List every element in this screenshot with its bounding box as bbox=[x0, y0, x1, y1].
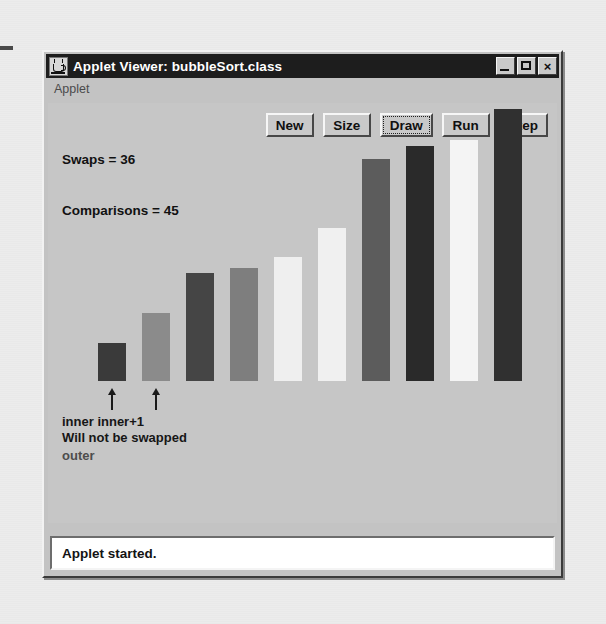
pointer-labels: inner inner+1 bbox=[62, 414, 144, 430]
java-coffee-cup-icon bbox=[49, 57, 68, 76]
outer-label: outer bbox=[62, 448, 95, 464]
window-controls: × bbox=[496, 57, 557, 75]
bar-chart bbox=[48, 103, 557, 523]
close-button[interactable]: × bbox=[538, 57, 557, 75]
maximize-button[interactable] bbox=[517, 57, 536, 75]
bar-0 bbox=[98, 343, 126, 381]
status-bar: Applet started. bbox=[50, 536, 555, 570]
bar-4 bbox=[274, 257, 302, 381]
bar-9 bbox=[494, 109, 522, 381]
applet-canvas: Swaps = 36 Comparisons = 45 New Size Dra… bbox=[48, 103, 557, 523]
window-titlebar[interactable]: Applet Viewer: bubbleSort.class × bbox=[46, 54, 559, 78]
status-text: Applet started. bbox=[62, 546, 157, 561]
close-icon: × bbox=[539, 58, 556, 74]
window-title: Applet Viewer: bubbleSort.class bbox=[73, 59, 496, 74]
bar-1 bbox=[142, 313, 170, 381]
bar-8 bbox=[450, 140, 478, 381]
menu-item-applet[interactable]: Applet bbox=[51, 81, 92, 97]
bar-5 bbox=[318, 228, 346, 381]
applet-viewer-window: Applet Viewer: bubbleSort.class × Applet… bbox=[42, 50, 563, 578]
swap-message: Will not be swapped bbox=[62, 430, 187, 446]
minimize-button[interactable] bbox=[496, 57, 515, 75]
bar-6 bbox=[362, 159, 390, 381]
bar-3 bbox=[230, 268, 258, 381]
menubar: Applet bbox=[44, 78, 561, 103]
scan-edge-artifact bbox=[0, 46, 13, 50]
bar-2 bbox=[186, 273, 214, 381]
bar-7 bbox=[406, 146, 434, 381]
